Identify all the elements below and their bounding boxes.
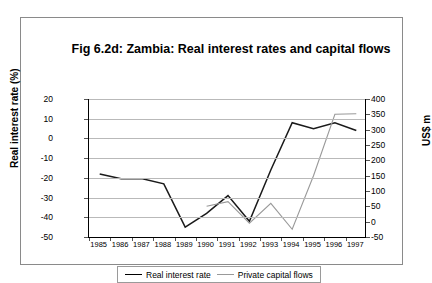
legend-label: Private capital flows [238, 270, 313, 280]
gridline [89, 138, 365, 139]
chart-frame: Fig 6.2d: Zambia: Real interest rates an… [20, 17, 403, 265]
y2-axis-tick [366, 237, 370, 238]
legend-label: Real interest rate [146, 270, 211, 280]
y-axis-tick [84, 158, 88, 159]
gridline [89, 178, 365, 179]
y2-axis-tick-label: 200 [371, 155, 411, 165]
series-line-private-capital-flows [207, 114, 357, 230]
y-axis-tick [84, 119, 88, 120]
y-axis-tick [84, 217, 88, 218]
gridline [89, 158, 365, 159]
y2-axis-tick-label: 0 [371, 217, 411, 227]
y-axis-tick-label: -50 [13, 232, 53, 242]
y2-axis-tick [366, 191, 370, 192]
legend-item-real-interest-rate: Real interest rate [125, 270, 211, 280]
x-axis-tick-label: 1997 [342, 240, 368, 249]
gridline [89, 217, 365, 218]
y-axis-tick [84, 138, 88, 139]
y2-axis-tick [366, 222, 370, 223]
gridline [89, 198, 365, 199]
y-axis-tick-label: 0 [13, 133, 53, 143]
y-axis-tick [84, 99, 88, 100]
y2-axis-tick-label: -50 [371, 232, 411, 242]
y2-axis-tick [366, 114, 370, 115]
y2-axis-tick-label: 50 [371, 201, 411, 211]
legend-item-private-capital-flows: Private capital flows [217, 270, 313, 280]
y2-axis-tick-label: 350 [371, 109, 411, 119]
y2-axis-tick-label: 300 [371, 125, 411, 135]
y-axis-tick-label: -10 [13, 153, 53, 163]
x-axis-line [88, 237, 366, 238]
y2-axis-tick-label: 100 [371, 186, 411, 196]
y2-axis-tick [366, 176, 370, 177]
y-axis-tick [84, 198, 88, 199]
y2-axis-tick [366, 145, 370, 146]
y2-axis-tick-label: 400 [371, 94, 411, 104]
y2-axis-tick [366, 130, 370, 131]
y-axis-tick [84, 237, 88, 238]
y2-axis-tick-label: 250 [371, 140, 411, 150]
plot-area [88, 99, 366, 237]
y2-axis-title: US$ m [421, 115, 432, 146]
chart-title: Fig 6.2d: Zambia: Real interest rates an… [61, 42, 401, 57]
y-axis-tick-label: -30 [13, 193, 53, 203]
y2-axis-tick-label: 150 [371, 171, 411, 181]
gridline [89, 119, 365, 120]
y-axis-tick [84, 178, 88, 179]
chart-legend: Real interest rate Private capital flows [117, 266, 321, 283]
y2-axis-tick [366, 99, 370, 100]
y-axis-tick-label: 20 [13, 94, 53, 104]
y-axis-tick-label: -20 [13, 173, 53, 183]
gridline [89, 99, 365, 100]
y-axis-tick-label: 10 [13, 114, 53, 124]
y-axis-tick-label: -40 [13, 212, 53, 222]
y2-axis-tick [366, 160, 370, 161]
legend-swatch-line [125, 274, 142, 275]
legend-swatch-line [217, 274, 234, 275]
y2-axis-tick [366, 206, 370, 207]
